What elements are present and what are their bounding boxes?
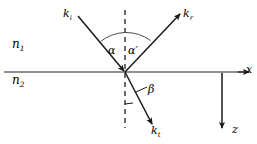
transmitted-ray	[125, 72, 152, 124]
reflected-ray	[125, 14, 180, 72]
label-reflected-wavevector: kr	[183, 8, 193, 22]
label-refractive-index-upper: n1	[12, 38, 24, 53]
label-angle-of-incidence: α	[108, 45, 115, 56]
label-incident-wavevector: ki	[63, 8, 72, 22]
beta-leader-line	[136, 87, 147, 92]
label-z-axis: z	[232, 124, 238, 135]
label-angle-of-refraction: β	[148, 84, 154, 95]
beta-angle-tick	[125, 103, 133, 104]
refraction-diagram: n1 n2 ki kr kt α α′ β x z	[0, 0, 257, 144]
label-refractive-index-lower: n2	[12, 74, 24, 89]
incident-ray	[78, 16, 124, 71]
label-transmitted-wavevector: kt	[151, 125, 160, 139]
label-angle-of-reflection: α′	[128, 45, 138, 56]
label-x-axis: x	[246, 64, 252, 75]
diagram-canvas	[0, 0, 257, 144]
